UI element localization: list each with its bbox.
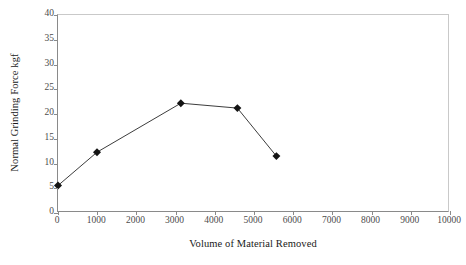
y-tick-label: 25: [30, 84, 54, 94]
y-tick-mark: [54, 139, 58, 140]
y-tick-label: 30: [30, 59, 54, 69]
y-tick-label: 15: [30, 133, 54, 143]
x-tick-label: 0: [55, 216, 60, 226]
y-tick-label: 40: [30, 9, 54, 19]
y-tick-label: 10: [30, 158, 54, 168]
x-tick-label: 4000: [204, 216, 223, 226]
x-tick-label: 9000: [400, 216, 419, 226]
x-axis-title-text: Volume of Material Removed: [189, 238, 317, 249]
x-tick-label: 5000: [244, 216, 263, 226]
data-series-svg: [58, 15, 448, 211]
plot-area: [57, 14, 449, 212]
y-axis-title-text: Normal Grinding Force kgf: [9, 53, 20, 171]
y-tick-mark: [54, 15, 58, 16]
x-axis-title: Volume of Material Removed: [57, 238, 449, 249]
y-axis-tick-labels: 0510152025303540: [26, 0, 54, 265]
x-tick-label: 6000: [283, 216, 302, 226]
x-axis-tick-labels: 0100020003000400050006000700080009000100…: [57, 216, 449, 232]
y-tick-mark: [54, 188, 58, 189]
y-tick-label: 0: [30, 207, 54, 217]
x-tick-label: 7000: [322, 216, 341, 226]
y-tick-label: 35: [30, 34, 54, 44]
grinding-force-chart: Normal Grinding Force kgf 05101520253035…: [0, 0, 466, 265]
series-line: [58, 103, 276, 185]
x-tick-label: 1000: [87, 216, 106, 226]
x-tick-label: 10000: [437, 216, 461, 226]
data-point-marker: [177, 99, 185, 107]
y-tick-mark: [54, 40, 58, 41]
y-tick-mark: [54, 89, 58, 90]
y-axis-title: Normal Grinding Force kgf: [0, 0, 28, 225]
x-tick-label: 2000: [126, 216, 145, 226]
y-tick-mark: [54, 164, 58, 165]
y-tick-label: 5: [30, 183, 54, 193]
y-tick-mark: [54, 65, 58, 66]
y-tick-label: 20: [30, 108, 54, 118]
y-tick-mark: [54, 114, 58, 115]
x-tick-label: 8000: [361, 216, 380, 226]
x-tick-label: 3000: [165, 216, 184, 226]
